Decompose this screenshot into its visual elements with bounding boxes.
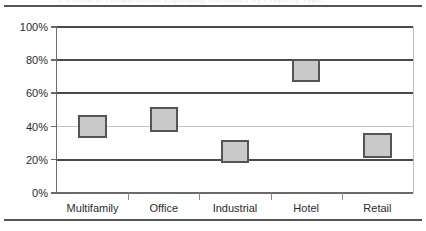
clipped-chart-title: Percent of Respondents Expecting Increas… (60, 0, 390, 4)
gridline-80 (57, 59, 413, 61)
y-axis-label: 20% (26, 154, 48, 166)
x-axis-label-hotel: Hotel (293, 202, 319, 214)
gridline-100 (57, 26, 413, 28)
range-bar (221, 140, 249, 163)
gridline-0 (57, 192, 413, 194)
gridline-40 (57, 126, 413, 127)
range-bar (363, 133, 391, 158)
y-axis-label: 40% (26, 121, 48, 133)
x-axis-label-retail: Retail (363, 202, 391, 214)
y-axis-label: 0% (32, 187, 48, 199)
plot-area: 0%20%40%60%80%100%MultifamilyOfficeIndus… (56, 27, 414, 193)
y-axis-tick (51, 59, 57, 61)
x-axis-label-industrial: Industrial (213, 202, 258, 214)
top-divider-rule (4, 5, 422, 7)
y-axis-label: 80% (26, 54, 48, 66)
bottom-divider-rule (4, 219, 422, 221)
x-axis-tick (271, 193, 272, 200)
y-axis-label: 100% (20, 21, 48, 33)
y-axis-tick (51, 26, 57, 28)
y-axis-tick (51, 159, 57, 161)
x-axis-tick (128, 193, 129, 200)
y-axis-tick (51, 192, 57, 194)
y-axis-label: 60% (26, 87, 48, 99)
range-bar (292, 59, 320, 82)
x-axis-label-office: Office (150, 202, 179, 214)
x-axis-tick (199, 193, 200, 200)
x-axis-tick (342, 193, 343, 200)
y-axis-tick (51, 126, 57, 128)
range-bar (150, 107, 178, 132)
range-bar (78, 115, 106, 138)
y-axis-tick (51, 92, 57, 94)
chart-figure: Percent of Respondents Expecting Increas… (0, 0, 426, 231)
gridline-60 (57, 92, 413, 94)
x-axis-label-multifamily: Multifamily (67, 202, 119, 214)
